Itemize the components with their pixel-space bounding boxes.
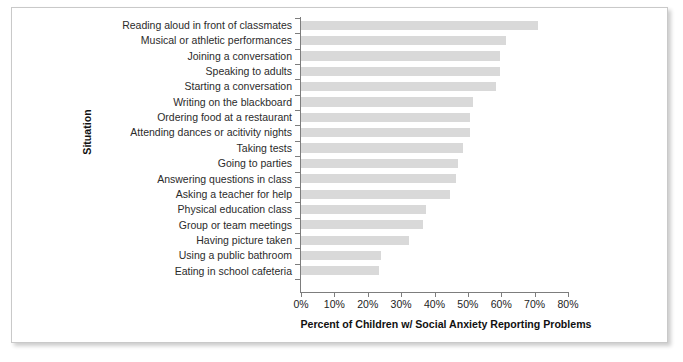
category-label: Asking a teacher for help (176, 187, 292, 202)
bar (301, 205, 426, 214)
y-axis-tick (295, 95, 301, 96)
y-axis-tick (295, 33, 301, 34)
category-label: Attending dances or acitivity nights (130, 125, 292, 140)
y-axis-tick (295, 110, 301, 111)
x-axis-tick (401, 292, 402, 297)
bar-row: Reading aloud in front of classmates (0, 18, 683, 33)
x-axis-title: Percent of Children w/ Social Anxiety Re… (246, 318, 646, 330)
bar-row: Musical or athletic performances (0, 33, 683, 48)
bar-row: Starting a conversation (0, 79, 683, 94)
bar-row: Eating in school cafeteria (0, 264, 683, 279)
y-axis-tick (295, 233, 301, 234)
y-axis-tick (295, 218, 301, 219)
x-axis-tick (501, 292, 502, 297)
bar (301, 21, 538, 30)
bar (301, 113, 470, 122)
bar-row: Answering questions in class (0, 172, 683, 187)
y-axis-tick (295, 279, 301, 280)
x-axis-tick (435, 292, 436, 297)
category-label: Having picture taken (196, 233, 292, 248)
x-axis-tick (334, 292, 335, 297)
bar (301, 143, 463, 152)
bar (301, 159, 458, 168)
bar (301, 236, 409, 245)
y-axis-tick (295, 172, 301, 173)
category-label: Group or team meetings (179, 218, 292, 233)
y-axis-title: Situation (81, 92, 93, 172)
y-axis-tick (295, 202, 301, 203)
bar-chart: Reading aloud in front of classmatesMusi… (0, 0, 683, 362)
bar (301, 67, 500, 76)
category-label: Starting a conversation (185, 79, 292, 94)
y-axis-tick (295, 79, 301, 80)
category-label: Ordering food at a restaurant (157, 110, 292, 125)
category-label: Using a public bathroom (179, 248, 292, 263)
category-label: Joining a conversation (188, 49, 292, 64)
bar (301, 36, 506, 45)
bar-row: Going to parties (0, 156, 683, 171)
bar (301, 82, 496, 91)
bar-row: Group or team meetings (0, 218, 683, 233)
y-axis-tick (295, 125, 301, 126)
x-axis-tick-label: 80% (545, 298, 591, 310)
category-label: Going to parties (218, 156, 292, 171)
x-axis-tick (568, 292, 569, 297)
bar-row: Taking tests (0, 141, 683, 156)
bar (301, 51, 500, 60)
bar (301, 190, 450, 199)
category-label: Speaking to adults (206, 64, 292, 79)
bar-row: Using a public bathroom (0, 248, 683, 263)
bar (301, 266, 379, 275)
x-axis-tick (535, 292, 536, 297)
x-axis-tick (368, 292, 369, 297)
bar-row: Joining a conversation (0, 49, 683, 64)
x-axis-tick (468, 292, 469, 297)
category-label: Answering questions in class (157, 172, 292, 187)
y-axis-tick (295, 49, 301, 50)
bar (301, 251, 381, 260)
y-axis-tick (295, 64, 301, 65)
category-label: Reading aloud in front of classmates (122, 18, 292, 33)
y-axis-tick (295, 18, 301, 19)
bar (301, 128, 470, 137)
y-axis-tick (295, 156, 301, 157)
x-axis-tick (301, 292, 302, 297)
category-label: Musical or athletic performances (141, 33, 292, 48)
bar-row: Speaking to adults (0, 64, 683, 79)
y-axis-tick (295, 141, 301, 142)
bar-row: Writing on the blackboard (0, 95, 683, 110)
y-axis-tick (295, 248, 301, 249)
category-label: Taking tests (237, 141, 292, 156)
bar (301, 220, 423, 229)
y-axis-tick (295, 187, 301, 188)
bar (301, 174, 456, 183)
category-label: Writing on the blackboard (173, 95, 292, 110)
bar-row: Asking a teacher for help (0, 187, 683, 202)
category-label: Eating in school cafeteria (175, 264, 292, 279)
bar-row: Physical education class (0, 202, 683, 217)
bar-row: Ordering food at a restaurant (0, 110, 683, 125)
bar-row: Attending dances or acitivity nights (0, 125, 683, 140)
bar-row: Having picture taken (0, 233, 683, 248)
bar (301, 97, 473, 106)
category-label: Physical education class (178, 202, 292, 217)
y-axis-tick (295, 264, 301, 265)
